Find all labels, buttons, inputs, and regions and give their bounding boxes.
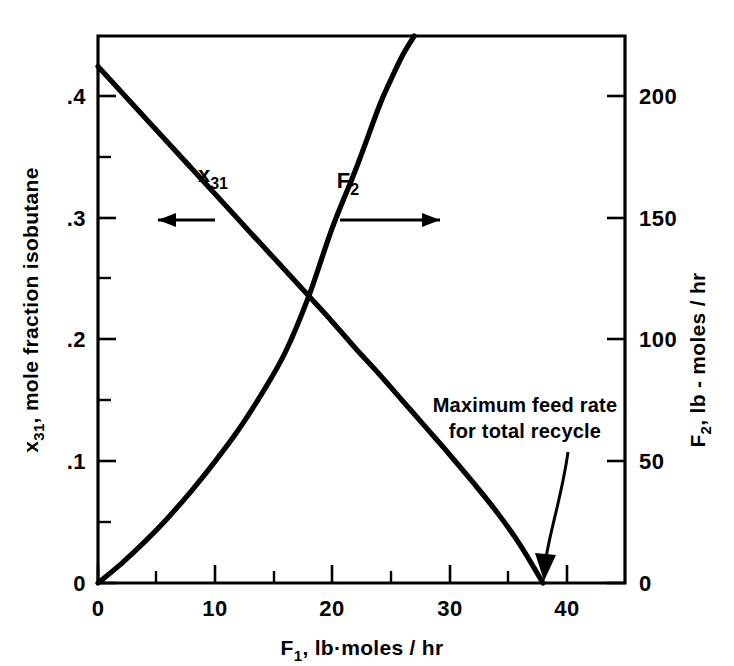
y-left-major-ticks (98, 96, 116, 583)
annotation-arrow (535, 452, 568, 581)
y-right-tick-label-50: 50 (639, 449, 664, 474)
curve-label-x31-sub: 31 (210, 175, 228, 192)
x-tick-label-40: 40 (554, 596, 579, 621)
arrow-right-icon (422, 213, 440, 227)
y-right-axis-title: F2, lb - moles / hr (686, 272, 714, 447)
x-tick-label-30: 30 (437, 596, 462, 621)
x-tick-label-10: 10 (202, 596, 227, 621)
x-tick-label-0: 0 (92, 596, 105, 621)
y-left-axis-title-main: x (19, 441, 42, 453)
y-right-axis-title-sub: 2 (697, 426, 714, 435)
plot-frame (98, 36, 625, 583)
y-left-tick-label-0-4: .4 (67, 84, 87, 109)
f2-right-pointer (340, 213, 440, 227)
annotation-line-2: for total recycle (449, 420, 601, 442)
figure-page: 0 10 20 30 40 F1, lb·moles / hr 0 .1 .2 … (0, 0, 734, 666)
y-left-axis-title-rest: , mole fraction isobutane (19, 167, 42, 423)
y-left-tick-label-0-2: .2 (67, 327, 86, 352)
chart-figure: 0 10 20 30 40 F1, lb·moles / hr 0 .1 .2 … (0, 0, 734, 666)
y-left-tick-label-0-1: .1 (67, 449, 86, 474)
y-right-axis-title-rest: , lb - moles / hr (686, 272, 709, 425)
curve-label-x31: x31 (198, 162, 228, 192)
y-right-tick-label-200: 200 (639, 84, 677, 109)
x-axis-title-rest: , lb·moles / hr (302, 636, 443, 659)
y-left-tick-label-0-3: .3 (67, 206, 86, 231)
curve-label-x31-main: x (198, 162, 211, 187)
y-left-axis-title: x31, mole fraction isobutane (19, 167, 47, 452)
x-axis-major-ticks (98, 565, 567, 583)
y-right-tick-label-150: 150 (639, 206, 677, 231)
arrow-left-icon (158, 213, 176, 227)
y-right-tick-label-100: 100 (639, 327, 677, 352)
x-axis-title: F1, lb·moles / hr (281, 636, 444, 664)
y-right-tick-label-0: 0 (639, 571, 652, 596)
y-right-major-ticks (607, 96, 625, 583)
y-left-axis-title-sub: 31 (30, 423, 47, 440)
y-left-tick-label-0: 0 (73, 571, 86, 596)
x-axis-title-main: F (281, 636, 294, 659)
curve-label-f2-main: F (337, 168, 350, 193)
curve-label-f2-sub: 2 (350, 181, 359, 198)
x-axis-title-sub: 1 (294, 647, 303, 664)
x-tick-label-20: 20 (319, 596, 344, 621)
y-right-axis-title-main: F (686, 434, 709, 447)
curve-x31 (98, 66, 543, 583)
x31-left-pointer (158, 213, 215, 227)
annotation-line-1: Maximum feed rate (433, 394, 618, 416)
